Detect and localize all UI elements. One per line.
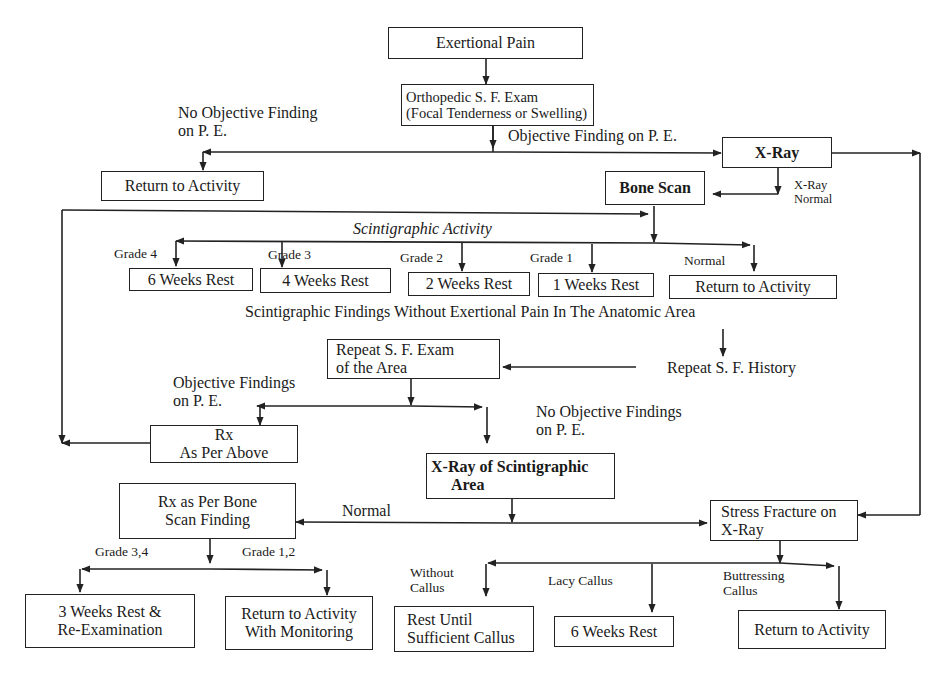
node-label-line1: Rx as Per Bone	[158, 493, 257, 511]
node-rx-bone-scan-finding: Rx as Per Bone Scan Finding	[119, 483, 296, 539]
label-line1: Objective Findings	[173, 374, 295, 392]
label-grade-4: Grade 4	[114, 246, 157, 261]
node-stress-fracture-xray: Stress Fracture on X-Ray	[710, 500, 858, 541]
node-label: X-Ray	[755, 144, 799, 162]
node-6-weeks-rest-callus: 6 Weeks Rest	[554, 616, 674, 647]
node-repeat-sf-exam: Repeat S. F. Exam of the Area	[327, 339, 500, 379]
node-label-line2: Area	[431, 476, 484, 494]
node-label-line1: 3 Weeks Rest &	[59, 603, 162, 621]
node-label-line1: Rx	[215, 426, 234, 444]
label-xray-normal: X-Ray Normal	[794, 178, 832, 206]
node-rx-as-per-above: Rx As Per Above	[150, 425, 298, 463]
node-return-to-activity-normal: Return to Activity	[669, 275, 837, 299]
label-repeat-sf-history: Repeat S. F. History	[667, 359, 796, 377]
label-objective-findings: Objective Findings on P. E.	[173, 374, 295, 410]
node-label-line2: Scan Finding	[165, 511, 250, 529]
label-without-callus: Without Callus	[410, 565, 454, 595]
node-label: Return to Activity	[125, 177, 241, 195]
node-label-line2: X-Ray	[721, 521, 764, 539]
node-4-weeks-rest: 4 Weeks Rest	[260, 268, 391, 293]
node-label-line1: X-Ray of Scintigraphic	[431, 458, 588, 476]
node-2-weeks-rest: 2 Weeks Rest	[408, 272, 530, 296]
node-1-weeks-rest: 1 Weeks Rest	[538, 273, 654, 297]
node-3-weeks-rest-reexam: 3 Weeks Rest & Re-Examination	[25, 594, 195, 648]
node-return-to-activity-top: Return to Activity	[101, 171, 264, 201]
node-label-line1: Rest Until	[407, 611, 472, 629]
node-exertional-pain: Exertional Pain	[388, 27, 583, 59]
node-label-line2: As Per Above	[180, 444, 269, 462]
label-normal-scan: Normal	[684, 253, 725, 268]
label-grade-1-2: Grade 1,2	[242, 544, 295, 559]
node-label-line1: Repeat S. F. Exam	[336, 341, 454, 359]
node-return-to-activity-bottom: Return to Activity	[738, 610, 886, 649]
label-no-objective-findings: No Objective Findings on P. E.	[536, 403, 682, 439]
node-6-weeks-rest: 6 Weeks Rest	[129, 268, 253, 291]
label-line2: Callus	[410, 580, 454, 595]
label-line2: Callus	[723, 583, 785, 598]
node-rest-until-callus: Rest Until Sufficient Callus	[394, 606, 534, 652]
label-line1: X-Ray	[794, 178, 832, 192]
node-xray: X-Ray	[722, 137, 832, 168]
node-label: 2 Weeks Rest	[426, 275, 512, 293]
node-label-line2: Re-Examination	[58, 621, 163, 639]
node-label-line2: With Monitoring	[245, 623, 353, 641]
label-scint-findings-no-pain: Scintigraphic Findings Without Exertiona…	[245, 303, 695, 321]
label-line2: on P. E.	[178, 122, 318, 140]
node-label: 4 Weeks Rest	[282, 272, 368, 290]
node-label: Return to Activity	[695, 278, 811, 296]
label-grade-3: Grade 3	[268, 247, 311, 262]
node-label: 6 Weeks Rest	[148, 271, 234, 289]
label-grade-1: Grade 1	[530, 250, 573, 265]
label-line1: No Objective Findings	[536, 403, 682, 421]
label-line1: Without	[410, 565, 454, 580]
label-line2: on P. E.	[536, 421, 682, 439]
node-label-line1: Stress Fracture on	[721, 503, 837, 521]
label-line1: Buttressing	[723, 568, 785, 583]
node-orthopedic-exam: Orthopedic S. F. Exam (Focal Tenderness …	[401, 84, 594, 126]
node-label-line1: Orthopedic S. F. Exam	[406, 89, 538, 105]
node-label-line1: Return to Activity	[241, 605, 357, 623]
node-label-line2: of the Area	[336, 359, 407, 377]
label-buttressing-callus: Buttressing Callus	[723, 568, 785, 598]
label-grade-3-4: Grade 3,4	[95, 544, 148, 559]
stress-fracture-flowchart: Exertional Pain Orthopedic S. F. Exam (F…	[0, 0, 945, 676]
label-scintigraphic-activity: Scintigraphic Activity	[353, 220, 492, 238]
node-label: Exertional Pain	[436, 34, 535, 52]
node-label: 1 Weeks Rest	[553, 276, 639, 294]
label-grade-2: Grade 2	[400, 250, 443, 265]
label-line2: Normal	[794, 192, 832, 206]
node-return-with-monitoring: Return to Activity With Monitoring	[225, 596, 373, 650]
label-normal-xray: Normal	[342, 502, 391, 520]
label-line2: on P. E.	[173, 392, 295, 410]
node-label-line2: Sufficient Callus	[407, 629, 515, 647]
label-lacy-callus: Lacy Callus	[548, 573, 613, 588]
node-label: Return to Activity	[754, 621, 870, 639]
node-label-line2: (Focal Tenderness or Swelling)	[406, 105, 587, 121]
node-bone-scan: Bone Scan	[605, 171, 705, 205]
label-line1: No Objective Finding	[178, 104, 318, 122]
node-xray-scintigraphic-area: X-Ray of Scintigraphic Area	[426, 453, 615, 499]
node-label: 6 Weeks Rest	[571, 623, 657, 641]
label-no-objective-finding: No Objective Finding on P. E.	[178, 104, 318, 140]
node-label: Bone Scan	[619, 179, 691, 197]
label-objective-finding: Objective Finding on P. E.	[508, 127, 677, 145]
